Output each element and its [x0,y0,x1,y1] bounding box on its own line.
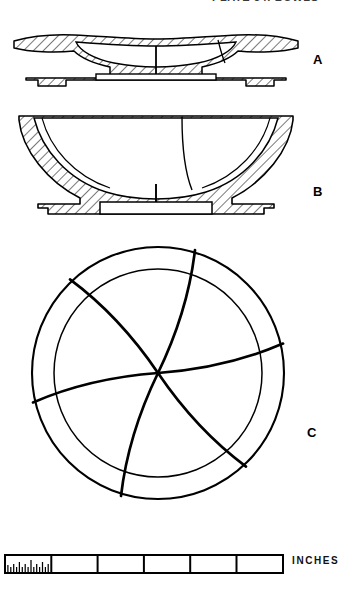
figure-a-section [6,18,306,98]
scale-units-label: INCHES [292,556,339,566]
figure-b-section [6,104,306,222]
scale-bar-graphic [4,551,290,577]
plate-figure: PLATE 34. BOWLS A [0,0,344,591]
figure-label-a: A [313,53,323,66]
figure-c-plan [23,238,293,508]
plate-caption: PLATE 34. BOWLS [212,0,332,4]
vessel-b-footring [100,202,212,214]
figure-label-b: B [313,185,323,198]
vessel-a-footring [96,74,216,80]
figure-label-c: C [307,426,317,439]
